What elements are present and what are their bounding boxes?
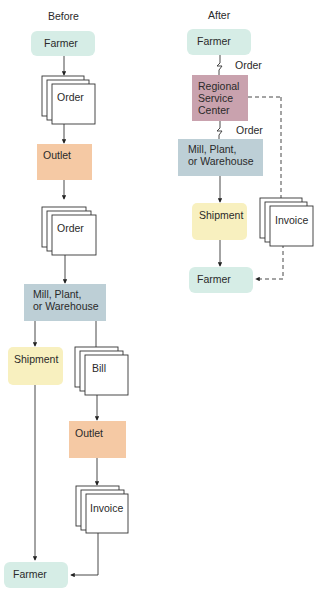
before-outlet-label-1: Outlet (43, 149, 71, 161)
after-rsc-label-line1: Regional (198, 80, 239, 92)
before-shipment-label: Shipment (14, 353, 58, 365)
before-mill-label-line2: or Warehouse (33, 300, 99, 312)
after-rsc-label-line3: Center (198, 104, 230, 116)
before-outlet-label-2: Outlet (75, 427, 103, 439)
after-farmer-top-label: Farmer (197, 35, 231, 47)
after-order-label-1: Order (235, 59, 262, 71)
before-invoice-label: Invoice (90, 502, 123, 514)
before-bill-label: Bill (92, 362, 106, 374)
after-invoice-label: Invoice (275, 214, 308, 226)
before-order-label-1: Order (57, 91, 84, 103)
after-mill-label-line1: Mill, Plant, (188, 143, 236, 155)
before-heading: Before (48, 10, 79, 22)
before-order-label-2: Order (57, 222, 84, 234)
after-farmer-bottom-label: Farmer (197, 273, 231, 285)
after-shipment-label: Shipment (199, 209, 243, 221)
after-mill-label-line2: or Warehouse (188, 155, 254, 167)
before-farmer-top-label: Farmer (44, 37, 78, 49)
after-order-label-2: Order (236, 124, 263, 136)
before-farmer-bottom-label: Farmer (13, 568, 47, 580)
before-mill-label-line1: Mill, Plant, (33, 288, 81, 300)
after-rsc-label-line2: Service (198, 92, 233, 104)
after-heading: After (208, 9, 230, 21)
